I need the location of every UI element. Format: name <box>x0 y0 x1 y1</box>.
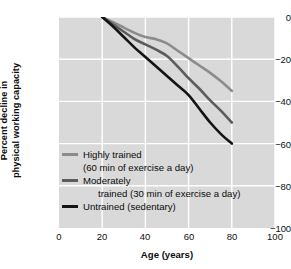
y-axis-title: Percent decline in physical working capa… <box>0 0 23 240</box>
legend-item-untrained: Untrained (sedentary) <box>62 200 272 213</box>
legend-swatch-moderately-trained <box>62 179 78 182</box>
series-line-0 <box>102 17 232 91</box>
plot-area: Highly trained (60 min of exercise a day… <box>59 17 275 228</box>
legend-swatch-untrained <box>62 205 78 208</box>
legend: Highly trained (60 min of exercise a day… <box>62 148 272 213</box>
legend-sublabel-highly-trained: (60 min of exercise a day) <box>62 161 272 174</box>
x-tick-label-80: 80 <box>215 231 249 242</box>
legend-label-highly-trained: Highly trained <box>83 148 142 161</box>
x-axis-title: Age (years) <box>59 249 275 260</box>
legend-swatch-highly-trained <box>62 153 78 156</box>
legend-item-moderately-trained: Moderately <box>62 174 272 187</box>
x-tick-label-40: 40 <box>128 231 162 242</box>
y-axis-title-line1: Percent decline in <box>0 62 11 177</box>
x-tick-label-100: 100 <box>258 231 291 242</box>
legend-item-highly-trained: Highly trained <box>62 148 272 161</box>
x-tick-label-20: 20 <box>85 231 119 242</box>
series-line-2 <box>102 17 232 144</box>
legend-sublabel-moderately-trained: trained (30 min of exercise a day) <box>62 187 272 200</box>
legend-label-untrained: Untrained (sedentary) <box>83 200 176 213</box>
x-tick-label-0: 0 <box>42 231 76 242</box>
legend-label-moderately-trained: Moderately <box>83 174 130 187</box>
series-line-1 <box>102 17 232 123</box>
figure: Percent decline in physical working capa… <box>0 0 291 269</box>
x-tick-label-60: 60 <box>172 231 206 242</box>
y-axis-title-line2: physical working capacity <box>11 62 23 177</box>
